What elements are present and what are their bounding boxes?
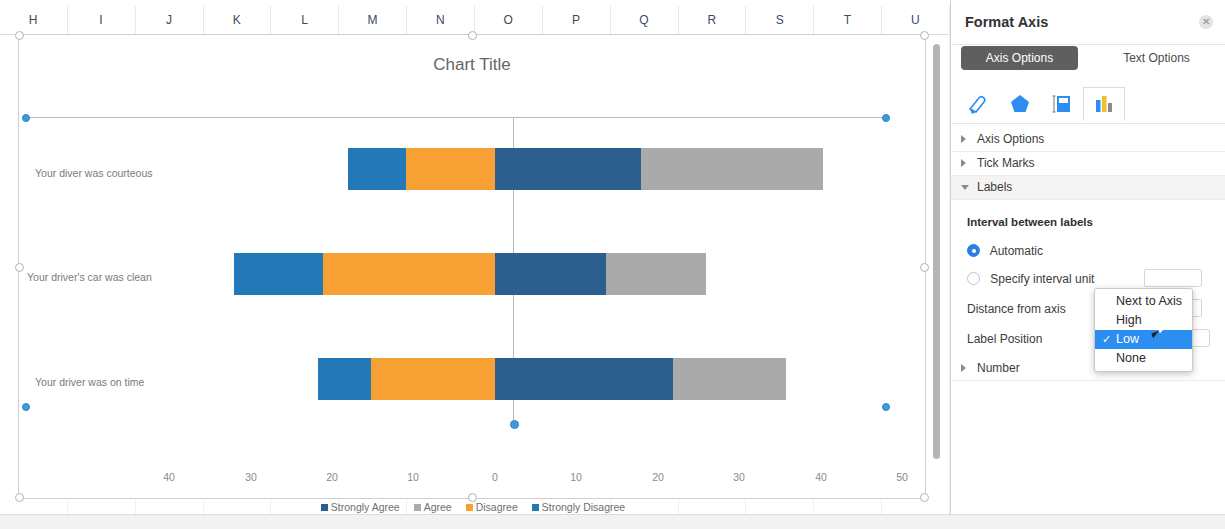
radio-button-on-icon bbox=[967, 244, 980, 257]
column-header-s[interactable]: S bbox=[746, 6, 814, 34]
bar-segment-disagree[interactable] bbox=[323, 253, 495, 295]
legend-item-agree[interactable]: Agree bbox=[414, 501, 452, 513]
menu-item-label: Next to Axis bbox=[1116, 294, 1182, 308]
chevron-right-icon bbox=[961, 135, 966, 143]
label-position-label: Label Position bbox=[967, 332, 1042, 346]
legend-item-strongly-agree[interactable]: Strongly Agree bbox=[321, 501, 400, 513]
chart-legend[interactable]: Strongly Agree Agree Disagree Strongly D… bbox=[19, 501, 927, 513]
label-position-dropdown-menu[interactable]: Next to Axis High ✓ Low None bbox=[1094, 288, 1193, 372]
bar-segment-agree[interactable] bbox=[641, 148, 823, 190]
window-bottom-strip bbox=[0, 514, 1225, 529]
column-header-i[interactable]: I bbox=[68, 6, 136, 34]
vertical-scrollbar[interactable] bbox=[933, 44, 940, 459]
column-header-row: H I J K L M N O P Q R S T U bbox=[0, 6, 950, 35]
effects-icon[interactable] bbox=[999, 87, 1041, 121]
x-tick-label: 20 bbox=[326, 471, 338, 483]
size-and-properties-icon[interactable] bbox=[1041, 87, 1083, 121]
axis-handle-bottom-center[interactable] bbox=[510, 420, 519, 429]
chart-resize-handle-bottom-center[interactable] bbox=[468, 493, 477, 502]
tab-axis-options[interactable]: Axis Options bbox=[961, 46, 1078, 70]
radio-label: Automatic bbox=[990, 244, 1043, 258]
x-tick-label: 0 bbox=[492, 471, 498, 483]
section-label: Tick Marks bbox=[977, 156, 1035, 170]
bar-segment-strongly-agree[interactable] bbox=[495, 148, 641, 190]
column-header-m[interactable]: M bbox=[339, 6, 407, 34]
column-header-p[interactable]: P bbox=[543, 6, 611, 34]
tab-text-options[interactable]: Text Options bbox=[1098, 46, 1215, 70]
legend-item-strongly-disagree[interactable]: Strongly Disagree bbox=[532, 501, 625, 513]
column-header-o[interactable]: O bbox=[475, 6, 543, 34]
radio-label: Specify interval unit bbox=[990, 272, 1094, 286]
value-axis-tick-labels[interactable]: 40 30 20 10 0 10 20 30 40 50 bbox=[19, 471, 927, 487]
column-header-t[interactable]: T bbox=[814, 6, 882, 34]
section-label: Labels bbox=[977, 180, 1012, 194]
menu-item-next-to-axis[interactable]: Next to Axis bbox=[1095, 292, 1192, 311]
pane-header: Format Axis ✕ bbox=[951, 0, 1225, 45]
menu-item-none[interactable]: None bbox=[1095, 349, 1192, 368]
distance-from-axis-label: Distance from axis bbox=[967, 302, 1066, 316]
close-icon[interactable]: ✕ bbox=[1199, 15, 1213, 29]
section-label: Number bbox=[977, 361, 1020, 375]
radio-automatic[interactable]: Automatic bbox=[967, 244, 1043, 258]
section-labels[interactable]: Labels bbox=[951, 176, 1225, 200]
bar-segment-strongly-agree[interactable] bbox=[495, 253, 606, 295]
bar-segment-disagree[interactable] bbox=[371, 358, 495, 400]
menu-item-low[interactable]: ✓ Low bbox=[1095, 330, 1192, 349]
bar-segment-strongly-disagree[interactable] bbox=[318, 358, 371, 400]
column-header-k[interactable]: K bbox=[204, 6, 272, 34]
column-header-n[interactable]: N bbox=[407, 6, 475, 34]
bar-row-2[interactable] bbox=[19, 253, 927, 295]
bar-segment-agree[interactable] bbox=[673, 358, 786, 400]
column-header-q[interactable]: Q bbox=[611, 6, 679, 34]
menu-item-label: None bbox=[1116, 351, 1146, 365]
legend-item-disagree[interactable]: Disagree bbox=[466, 501, 518, 513]
bar-segment-strongly-agree[interactable] bbox=[495, 358, 673, 400]
column-header-h[interactable]: H bbox=[0, 6, 68, 34]
pane-icon-bar bbox=[951, 84, 1225, 124]
legend-swatch-icon bbox=[532, 504, 539, 511]
legend-label: Disagree bbox=[476, 501, 518, 513]
axis-handle-right[interactable] bbox=[882, 114, 890, 122]
chart-resize-handle-bottom-right[interactable] bbox=[920, 493, 929, 502]
chart-resize-handle-top-right[interactable] bbox=[920, 31, 929, 40]
column-header-u[interactable]: U bbox=[882, 6, 950, 34]
chart-resize-handle-top-center[interactable] bbox=[468, 31, 477, 40]
radio-specify-interval-unit[interactable]: Specify interval unit bbox=[967, 272, 1094, 286]
chart-resize-handle-top-left[interactable] bbox=[15, 31, 24, 40]
chevron-down-icon bbox=[961, 185, 969, 190]
specify-interval-unit-input[interactable] bbox=[1144, 269, 1202, 287]
legend-label: Strongly Agree bbox=[331, 501, 400, 513]
x-tick-label: 40 bbox=[815, 471, 827, 483]
legend-swatch-icon bbox=[414, 504, 421, 511]
format-axis-pane: Format Axis ✕ Axis Options Text Options bbox=[950, 0, 1225, 529]
bar-segment-disagree[interactable] bbox=[406, 148, 495, 190]
axis-handle-left[interactable] bbox=[22, 114, 30, 122]
chart-resize-handle-middle-left[interactable] bbox=[15, 263, 24, 272]
chart-resize-handle-middle-right[interactable] bbox=[920, 263, 929, 272]
axis-handle-bottom-left[interactable] bbox=[22, 403, 30, 411]
column-header-r[interactable]: R bbox=[679, 6, 747, 34]
legend-label: Agree bbox=[424, 501, 452, 513]
axis-handle-bottom-right[interactable] bbox=[882, 403, 890, 411]
column-header-l[interactable]: L bbox=[271, 6, 339, 34]
bar-row-3[interactable] bbox=[19, 358, 927, 400]
chart-object[interactable]: Chart Title Your diver was courteous You… bbox=[18, 34, 926, 499]
bar-segment-strongly-disagree[interactable] bbox=[348, 148, 406, 190]
column-header-j[interactable]: J bbox=[136, 6, 204, 34]
axis-options-chart-icon[interactable] bbox=[1083, 87, 1125, 121]
menu-item-label: Low bbox=[1116, 332, 1139, 346]
chart-resize-handle-bottom-left[interactable] bbox=[15, 493, 24, 502]
pane-title: Format Axis bbox=[965, 14, 1048, 30]
chevron-right-icon bbox=[961, 364, 966, 372]
section-tick-marks[interactable]: Tick Marks bbox=[951, 152, 1225, 176]
menu-item-high[interactable]: High bbox=[1095, 311, 1192, 330]
bar-row-1[interactable] bbox=[19, 148, 927, 190]
fill-and-line-icon[interactable] bbox=[957, 87, 999, 121]
chart-title[interactable]: Chart Title bbox=[19, 55, 925, 75]
spreadsheet-background: H I J K L M N O P Q R S T U Chart Title bbox=[0, 0, 951, 529]
bar-segment-agree[interactable] bbox=[606, 253, 706, 295]
x-tick-label: 30 bbox=[245, 471, 257, 483]
section-axis-options[interactable]: Axis Options bbox=[951, 128, 1225, 152]
x-tick-label: 10 bbox=[570, 471, 582, 483]
bar-segment-strongly-disagree[interactable] bbox=[234, 253, 323, 295]
